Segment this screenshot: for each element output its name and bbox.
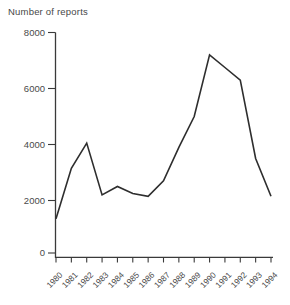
line-chart: 0200040006000800019801981198219831984198… [0,0,290,305]
y-tick-label: 4000 [24,139,45,150]
x-tick-label: 1994 [259,270,279,290]
y-tick-label: 0 [40,247,45,258]
y-tick-label: 6000 [24,83,45,94]
x-ticks: 1980198119821983198419851986198719881989… [44,257,279,290]
figure: Number of reports 0200040006000800019801… [0,0,290,305]
y-ticks: 02000400060008000 [24,27,56,258]
y-tick-label: 8000 [24,27,45,38]
series-line [56,55,271,219]
y-tick-label: 2000 [24,195,45,206]
